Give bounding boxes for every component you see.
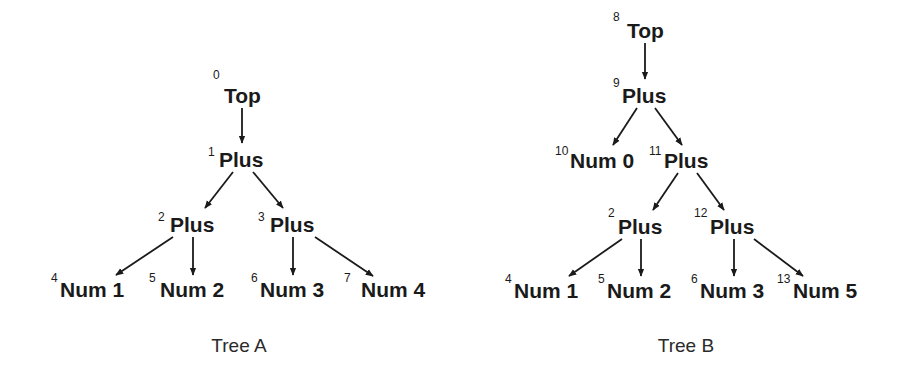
tree-node: 1Plus <box>208 145 263 171</box>
node-index: 13 <box>777 272 791 286</box>
node-label: Top <box>224 84 261 107</box>
node-index: 8 <box>613 10 620 24</box>
node-index: 11 <box>649 144 662 158</box>
node-index: 2 <box>158 210 165 224</box>
node-label: Plus <box>618 215 662 238</box>
tree-diagram: 0Top1Plus2Plus3Plus4Num 15Num 26Num 37Nu… <box>0 0 899 374</box>
tree-node: 8Top <box>613 10 664 42</box>
node-label: Plus <box>710 215 754 238</box>
node-index: 6 <box>251 271 258 285</box>
node-label: Num 3 <box>700 279 764 302</box>
tree-node: 3Plus <box>258 210 314 236</box>
node-label: Num 3 <box>260 278 324 301</box>
tree-node: 12Plus <box>694 206 754 238</box>
edge-arrow-2-to-4 <box>116 237 173 275</box>
node-index: 4 <box>505 272 512 286</box>
tree-node: 5Num 2 <box>598 272 671 302</box>
node-index: 9 <box>613 76 620 90</box>
tree-node: 4Num 1 <box>51 271 125 301</box>
edge-arrow-9-to-11 <box>655 108 682 145</box>
tree-node: 10Num 0 <box>555 144 634 172</box>
tree-node: 4Num 1 <box>505 272 579 302</box>
node-label: Num 4 <box>361 278 426 301</box>
edge-arrow-2-to-4 <box>569 239 622 276</box>
edge-arrow-1-to-3 <box>253 172 283 208</box>
node-index: 3 <box>258 210 265 224</box>
tree-node: 2Plus <box>158 210 214 236</box>
node-index: 1 <box>208 145 215 159</box>
node-index: 6 <box>691 272 698 286</box>
node-index: 0 <box>213 68 220 82</box>
tree-node: 7Num 4 <box>344 271 426 301</box>
tree-node: 2Plus <box>608 206 662 238</box>
tree-caption: Tree B <box>658 335 714 356</box>
node-label: Plus <box>270 213 314 236</box>
node-label: Num 1 <box>514 279 579 302</box>
node-label: Num 1 <box>60 278 125 301</box>
edge-arrow-9-to-10 <box>613 108 637 145</box>
tree-node: 13Num 5 <box>777 272 858 302</box>
tree-node: 6Num 3 <box>251 271 324 301</box>
edge-arrow-11-to-12 <box>697 173 724 210</box>
edge-arrow-12-to-13 <box>754 239 803 276</box>
tree-node: 6Num 3 <box>691 272 764 302</box>
node-label: Plus <box>622 84 666 107</box>
node-label: Plus <box>170 213 214 236</box>
node-label: Num 0 <box>570 149 634 172</box>
edge-arrow-11-to-2 <box>653 173 678 210</box>
node-label: Top <box>627 19 664 42</box>
tree-node: 5Num 2 <box>149 271 224 301</box>
tree-b: 8Top9Plus10Num 011Plus2Plus12Plus4Num 15… <box>505 10 858 356</box>
node-index: 5 <box>598 272 605 286</box>
node-label: Num 2 <box>160 278 224 301</box>
node-index: 7 <box>344 271 351 285</box>
node-label: Plus <box>664 149 708 172</box>
node-index: 5 <box>149 271 156 285</box>
node-index: 4 <box>51 271 58 285</box>
node-index: 10 <box>555 144 569 158</box>
tree-a: 0Top1Plus2Plus3Plus4Num 15Num 26Num 37Nu… <box>51 68 426 356</box>
tree-node: 11Plus <box>649 144 708 172</box>
node-index: 12 <box>694 206 708 220</box>
tree-caption: Tree A <box>211 335 267 356</box>
edge-arrow-1-to-2 <box>205 172 233 208</box>
tree-node: 9Plus <box>613 76 666 107</box>
tree-node: 0Top <box>213 68 261 107</box>
node-index: 2 <box>608 206 615 220</box>
node-label: Num 2 <box>607 279 671 302</box>
node-label: Num 5 <box>793 279 858 302</box>
node-label: Plus <box>219 148 263 171</box>
